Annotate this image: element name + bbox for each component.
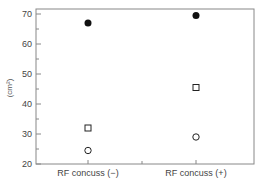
x-axis: RF concuss (−)RF concuss (+) xyxy=(57,160,226,178)
y-axis: 203040506070 xyxy=(22,9,41,169)
x-tick-label: RF concuss (+) xyxy=(165,168,226,178)
plot-frame xyxy=(36,9,254,164)
scatter-chart: 203040506070 RF concuss (−)RF concuss (+… xyxy=(0,0,258,183)
y-tick-label: 20 xyxy=(22,159,32,169)
filled-circle-marker xyxy=(193,12,200,19)
filled-circle-marker xyxy=(85,20,92,27)
y-tick-label: 60 xyxy=(22,39,32,49)
y-tick-label: 30 xyxy=(22,129,32,139)
open-square-marker xyxy=(85,125,91,131)
y-tick-label: 40 xyxy=(22,99,32,109)
y-tick-label: 50 xyxy=(22,69,32,79)
x-tick-label: RF concuss (−) xyxy=(57,168,118,178)
open-square-marker xyxy=(193,85,199,91)
data-points xyxy=(85,12,200,154)
open-circle-marker xyxy=(193,134,199,140)
y-tick-label: 70 xyxy=(22,9,32,19)
open-circle-marker xyxy=(85,147,91,153)
y-axis-title: (cm²) xyxy=(5,78,14,97)
